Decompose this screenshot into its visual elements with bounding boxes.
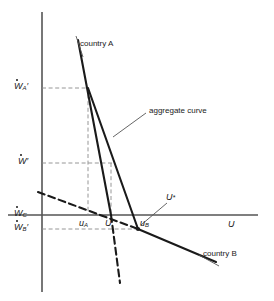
aggregate-curve-label: aggregate curve	[149, 107, 207, 115]
aggregate-curve-line	[88, 88, 138, 229]
country-a-line	[78, 40, 111, 215]
aggregate-curve-leader	[113, 113, 146, 137]
x-tick-label-U: U	[105, 219, 112, 228]
y-tick-label-wA: WA′	[14, 82, 28, 91]
u-star-label: U*	[166, 193, 175, 202]
x-axis-title: U	[228, 220, 235, 229]
x-tick-label-uB: uB	[140, 219, 149, 228]
y-tick-label-wB: WB′	[14, 223, 28, 232]
country-b-label: country B	[203, 250, 237, 258]
figure-canvas: WA′ W′ WC WB′ uA U uB U country A aggreg…	[0, 0, 274, 301]
y-tick-label-wstar: W′	[18, 157, 28, 166]
country-a-label: country A	[80, 40, 113, 48]
x-tick-label-uA: uA	[79, 219, 88, 228]
country-a-line-dashed-extension	[111, 215, 120, 283]
y-tick-label-wC: WC	[14, 209, 27, 218]
